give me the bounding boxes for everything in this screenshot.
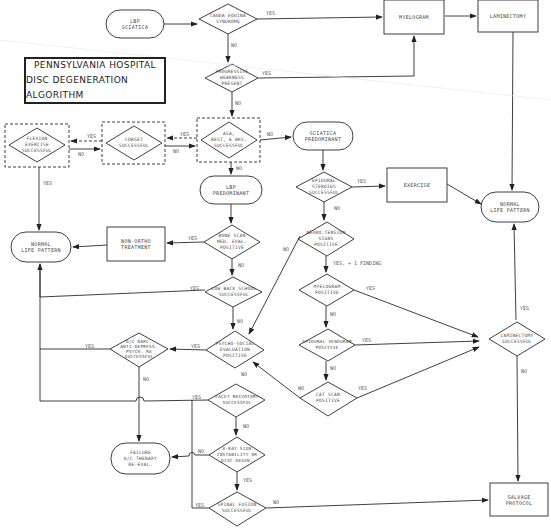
node-dc-narc: D/C Narc. anti-depress. psych. Rx succes… — [112, 335, 166, 363]
edge-label-cauda-yes: Yes — [266, 10, 275, 16]
edge-label-cauda-no: No — [231, 42, 237, 48]
node-epidural-steroids: Epidural steroids successful — [298, 176, 350, 198]
node-bone-scan: Bone scan med. eval. positive — [206, 230, 258, 254]
edge-label-laminectomy-yes: Yes — [520, 305, 529, 311]
title-line-1: PENNSYLVANIA HOSPITAL — [34, 58, 156, 73]
edge-label-asa-yes: Yes — [180, 131, 189, 137]
node-spinal-fusion: Spinal fusion successful — [211, 498, 263, 518]
edge-label-myelogram-yes: Yes — [366, 285, 375, 291]
node-cat-scan: CAT scan positive — [302, 388, 354, 408]
flowchart: PENNSYLVANIA HOSPITAL DISC DEGENERATION … — [0, 0, 551, 530]
edge-label-asa-no: No — [267, 131, 273, 137]
node-facet-rhizotomy: Facet rhizotomy successful — [210, 390, 264, 410]
edge-label-psycho-yes: Yes — [191, 343, 200, 349]
edge-label-xray-no: No — [198, 448, 204, 454]
edge-label-facet-no: No — [243, 423, 249, 429]
edge-label-catscan-no: No — [298, 385, 304, 391]
node-low-back-school: Low back school successful — [207, 282, 261, 302]
node-normal-life-right: Normal life pattern — [481, 192, 539, 222]
node-sciatica-predominant: Sciatica predominant — [293, 122, 353, 150]
node-laminectomy: Laminectomy — [478, 0, 538, 32]
node-exercise: Exercise — [387, 168, 447, 202]
edge-label-epidural-yes: Yes — [357, 178, 366, 184]
edge-label-myelogram-no: No — [330, 311, 336, 317]
edge-label-xray-yes: Yes — [243, 477, 252, 483]
node-progressive-weakness: Progressive weakness present — [207, 66, 257, 90]
edge-label-fusion-no: No — [273, 499, 279, 505]
edge-label-bonescan-no: No — [238, 262, 244, 268]
edge-label-weakness-no: No — [235, 100, 241, 106]
edge-label-venogram-yes: Yes — [362, 337, 371, 343]
edge-label-asa-down-no: No — [236, 165, 242, 171]
edge-label-corset-no: No — [173, 148, 179, 154]
edge-label-fusion-yes: Yes — [195, 502, 204, 508]
node-corset: Corset successful — [108, 131, 160, 155]
edge-label-neuro-no: No — [283, 246, 289, 252]
node-myelogram-positive: Myelogram positive — [301, 280, 353, 300]
node-salvage-protocol: Salvage protocol — [490, 483, 548, 516]
node-laminectomy-successful: Laminectomy successful — [491, 328, 543, 350]
title-line-2: DISC DEGENERATION ALGORITHM — [26, 73, 164, 103]
node-failure: Failure D/C therapy re-eval. — [111, 443, 170, 474]
edge-label-lowback-no: No — [237, 318, 243, 324]
node-xray-signs: X-ray sign instability or disc degen. — [211, 443, 263, 467]
node-myelogram: Myelogram — [384, 0, 444, 34]
edge-label-neuro-yes-finding: Yes, + 1 finding — [333, 260, 381, 266]
edge-label-catscan-yes: Yes — [358, 385, 367, 391]
diagram-title: PENNSYLVANIA HOSPITAL DISC DEGENERATION … — [24, 57, 166, 104]
edge-label-epidural-no: No — [334, 205, 340, 211]
edge-label-psycho-no: No — [241, 371, 247, 377]
edge-label-lowback-yes: Yes — [190, 285, 199, 291]
edge-label-laminectomy-no: No — [521, 368, 527, 374]
node-non-ortho-treatment: Non-ortho treatment — [107, 227, 165, 261]
node-psycho-social: Psycho-social evaluation positive — [208, 337, 262, 363]
node-flexion-exercise: Flexion exercise successful — [11, 131, 63, 159]
node-lbp-predominant: LBP Predominant — [200, 176, 262, 204]
node-lbp-sciatica: LBP Sciatica — [106, 10, 164, 38]
node-neuro-tension: Neuro.tension signs positive — [300, 227, 352, 251]
node-cauda-equina: Cauda equina syndrome — [201, 8, 255, 30]
edge-label-bonescan-yes: Yes — [188, 235, 197, 241]
edge-label-flexion-yes: Yes — [43, 180, 52, 186]
node-asa-rest: ASA, rest, 6 wks. successful — [203, 126, 255, 154]
edge-label-flexion-no: No — [78, 151, 84, 157]
edge-label-facet-yes: Yes — [192, 394, 201, 400]
edge-label-corset-yes: Yes — [87, 133, 96, 139]
edge-label-dcnarc-no: No — [143, 376, 149, 382]
node-epidural-venogram: Epidural venogram positive — [300, 335, 354, 355]
edge-label-weakness-yes: Yes — [262, 70, 271, 76]
edge-label-dcnarc-yes: Yes — [85, 343, 94, 349]
node-normal-life-left: Normal life pattern — [11, 232, 71, 262]
edge-label-venogram-no: No — [330, 365, 336, 371]
